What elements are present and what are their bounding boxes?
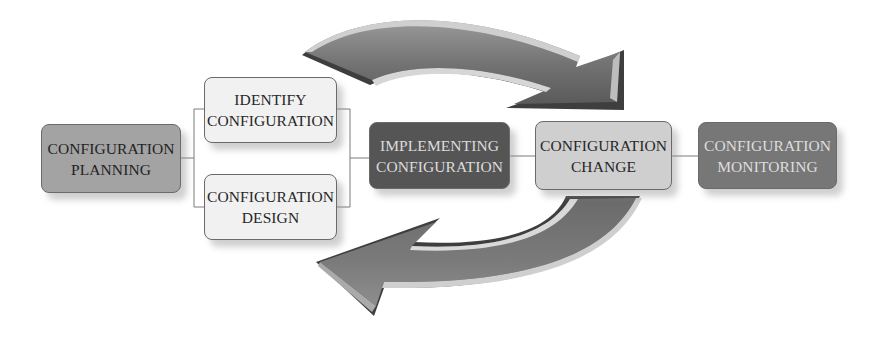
node-label-line: CONFIGURATION (207, 186, 334, 207)
node-label-line: CONFIGURATION (376, 156, 503, 177)
node-label-line: CONFIGURATION (47, 138, 174, 159)
top-curved-arrow-icon (302, 20, 624, 110)
node-label-line: CONFIGURATION (207, 110, 334, 131)
node-configuration-change: CONFIGURATION CHANGE (535, 121, 672, 190)
node-configuration-planning: CONFIGURATION PLANNING (41, 124, 181, 193)
node-label-line: CHANGE (571, 156, 636, 177)
node-label-line: DESIGN (242, 207, 299, 228)
node-implementing-configuration: IMPLEMENTING CONFIGURATION (369, 122, 510, 189)
node-label-line: CONFIGURATION (704, 135, 831, 156)
node-configuration-monitoring: CONFIGURATION MONITORING (698, 122, 837, 189)
node-label-line: IDENTIFY (234, 89, 306, 110)
diagram-canvas: CONFIGURATION PLANNING IDENTIFY CONFIGUR… (0, 0, 879, 338)
node-label-line: MONITORING (717, 156, 818, 177)
node-label-line: CONFIGURATION (540, 135, 667, 156)
node-configuration-design: CONFIGURATION DESIGN (204, 174, 337, 240)
node-identify-configuration: IDENTIFY CONFIGURATION (204, 77, 337, 143)
bottom-curved-arrow-icon (316, 196, 642, 316)
node-label-line: IMPLEMENTING (380, 135, 499, 156)
node-label-line: PLANNING (71, 159, 151, 180)
